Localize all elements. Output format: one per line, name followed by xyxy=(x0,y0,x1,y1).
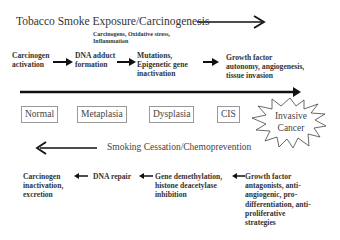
step-carcinogen-activation: Carcinogen activation xyxy=(12,51,49,69)
stage-cis: CIS xyxy=(217,106,240,123)
step-text: Carcinogen xyxy=(12,51,49,60)
cancer-label: Cancer xyxy=(266,122,316,134)
reverse-arrow-1 xyxy=(74,173,88,179)
stage-normal: Normal xyxy=(21,106,58,123)
invasive-label: Invasive xyxy=(266,110,316,122)
step-growth-factor-antagonists: Growth factor antagonists, anti- angioge… xyxy=(245,172,311,227)
step-arrow-3 xyxy=(203,58,219,66)
prevention-title: Smoking Cessation/Chemoprevention xyxy=(107,142,251,152)
step-growth-factor-autonomy: Growth factor autonomy, angiogenesis, ti… xyxy=(226,53,304,81)
step-text: strategies xyxy=(245,218,311,227)
carcinogenesis-title: Tobacco Smoke Exposure/Carcinogenesis xyxy=(16,15,209,27)
step-text: Carcinogen xyxy=(23,172,63,181)
progression-arrow xyxy=(20,87,301,97)
step-text: DNA repair xyxy=(93,172,131,181)
stage-dysplasia: Dysplasia xyxy=(149,106,194,123)
reverse-arrow-3 xyxy=(232,173,245,179)
step-gene-demethylation: Gene demethylation, histone deacetylase … xyxy=(155,172,222,200)
step-arrow-1 xyxy=(53,58,73,66)
step-text: excretion xyxy=(23,190,63,199)
step-text: Epigenetic gene xyxy=(137,60,188,69)
step-text: Gene demethylation, xyxy=(155,172,222,181)
step-text: tissue invasion xyxy=(226,71,304,80)
factors-line-1: Carcinogens, Oxidative stress, xyxy=(93,31,170,38)
step-dna-adduct-formation: DNA adduct formation xyxy=(75,51,115,69)
step-text: proliferative xyxy=(245,209,311,218)
step-text: activation xyxy=(12,60,49,69)
step-text: inactivation, xyxy=(23,181,63,190)
step-dna-repair: DNA repair xyxy=(93,172,131,181)
step-mutations: Mutations, Epigenetic gene inactivation xyxy=(137,51,188,79)
step-text: inhibition xyxy=(155,190,222,199)
step-carcinogen-inactivation: Carcinogen inactivation, excretion xyxy=(23,172,63,200)
prevention-arrow xyxy=(37,142,97,154)
step-text: DNA adduct xyxy=(75,51,115,60)
stage-metaplasia: Metaplasia xyxy=(77,106,127,123)
factors-line-2: Inflammation xyxy=(93,38,170,45)
step-text: Growth factor xyxy=(245,172,311,181)
step-text: autonomy, angiogenesis, xyxy=(226,62,304,71)
carcinogenesis-factors: Carcinogens, Oxidative stress, Inflammat… xyxy=(93,31,170,45)
stage-invasive-cancer: Invasive Cancer xyxy=(266,110,316,134)
step-arrow-2 xyxy=(117,58,136,66)
step-text: differentiation, anti- xyxy=(245,200,311,209)
step-text: formation xyxy=(75,60,115,69)
step-text: antagonists, anti- xyxy=(245,181,311,190)
step-text: histone deacetylase xyxy=(155,181,222,190)
reverse-arrow-2 xyxy=(139,173,153,179)
step-text: inactivation xyxy=(137,69,188,78)
step-text: Mutations, xyxy=(137,51,188,60)
step-text: Growth factor xyxy=(226,53,304,62)
step-text: angiogenic, pro- xyxy=(245,190,311,199)
